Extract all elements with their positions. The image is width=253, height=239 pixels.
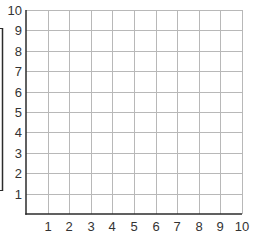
y-tick-label: 10	[8, 3, 22, 18]
y-tick-label: 3	[15, 146, 22, 161]
y-tick-label: 8	[15, 44, 22, 59]
x-axis-tick-labels: 12345678910	[44, 219, 249, 234]
x-tick-label: 9	[216, 219, 223, 234]
blank-grid-chart: 12345678910 12345678910	[0, 0, 253, 239]
x-tick-label: 6	[152, 219, 159, 234]
x-tick-label: 10	[235, 219, 249, 234]
y-tick-label: 4	[15, 125, 22, 140]
y-tick-label: 6	[15, 85, 22, 100]
x-tick-label: 4	[108, 219, 115, 234]
x-tick-label: 3	[87, 219, 94, 234]
x-tick-label: 5	[130, 219, 137, 234]
y-tick-label: 2	[15, 166, 22, 181]
grid-lines	[26, 10, 243, 214]
x-tick-label: 1	[44, 219, 51, 234]
x-tick-label: 2	[65, 219, 72, 234]
y-tick-label: 7	[15, 64, 22, 79]
y-tick-label: 5	[15, 105, 22, 120]
x-tick-label: 7	[173, 219, 180, 234]
y-tick-label: 9	[15, 23, 22, 38]
x-tick-label: 8	[195, 219, 202, 234]
y-tick-label: 1	[15, 187, 22, 202]
y-axis-tick-labels: 12345678910	[8, 3, 22, 202]
